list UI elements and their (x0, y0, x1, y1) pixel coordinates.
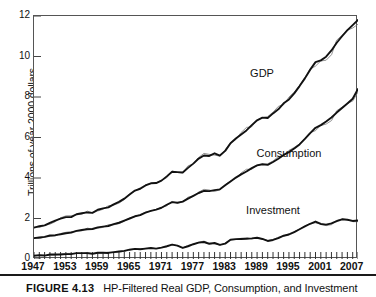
caption-text: HP-Filtered Real GDP, Consumption, and I… (103, 282, 357, 294)
figure-container: Trillions of year 2000 dollars 024681012… (0, 0, 376, 297)
y-tick-label: 12 (4, 10, 30, 20)
chart-canvas (34, 16, 358, 259)
y-tick-label: 8 (4, 91, 30, 101)
x-tick-label: 1971 (149, 260, 172, 272)
x-tick-label: 1977 (181, 260, 204, 272)
figure-caption: FIGURE 4.13 HP-Filtered Real GDP, Consum… (0, 274, 376, 297)
x-tick-label: 2007 (340, 260, 363, 272)
x-tick-label: 1989 (244, 260, 267, 272)
y-axis-tick-labels: 024681012 (0, 0, 30, 273)
y-tick-label: 6 (4, 132, 30, 142)
x-tick-label: 1983 (213, 260, 236, 272)
series-label-gdp: GDP (250, 67, 274, 79)
x-tick-label: 2001 (308, 260, 331, 272)
caption-number: FIGURE 4.13 (26, 282, 94, 294)
series-label-consumption: Consumption (257, 147, 322, 159)
series-label-investment: Investment (246, 204, 300, 216)
plot-area (33, 15, 357, 258)
x-tick-label: 1959 (85, 260, 108, 272)
x-tick-label: 1953 (53, 260, 76, 272)
x-tick-label: 1995 (276, 260, 299, 272)
y-tick-label: 2 (4, 213, 30, 223)
x-tick-label: 1947 (21, 260, 44, 272)
x-tick-label: 1965 (117, 260, 140, 272)
y-tick-label: 4 (4, 172, 30, 182)
x-axis-tick-labels: 1947195319591965197119771983198919952001… (0, 260, 376, 274)
y-tick-label: 10 (4, 51, 30, 61)
chart-figure: Trillions of year 2000 dollars 024681012… (0, 0, 376, 273)
